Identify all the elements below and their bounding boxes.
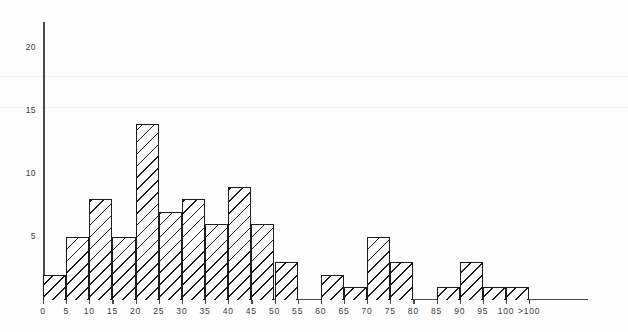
x-tick-label: 50 bbox=[269, 306, 280, 316]
histogram-bar bbox=[390, 262, 413, 300]
x-tick-label: 20 bbox=[130, 306, 141, 316]
x-tick-label: 10 bbox=[84, 306, 95, 316]
y-tick-label: 15 bbox=[8, 105, 36, 115]
x-tick-label: 55 bbox=[292, 306, 303, 316]
x-tick-label: 40 bbox=[223, 306, 234, 316]
x-tick-label: 75 bbox=[385, 306, 396, 316]
histogram-bar bbox=[228, 187, 251, 300]
histogram-bar bbox=[89, 199, 112, 300]
histogram-bar bbox=[460, 262, 483, 300]
x-tick-label: 85 bbox=[431, 306, 442, 316]
x-tick-label: 100 bbox=[498, 306, 515, 316]
x-tick-label: >100 bbox=[518, 306, 540, 316]
histogram-bar bbox=[182, 199, 205, 300]
x-tick-label: 95 bbox=[477, 306, 488, 316]
y-tick-label: 20 bbox=[8, 42, 36, 52]
histogram-bar bbox=[367, 237, 390, 300]
x-tick-label: 30 bbox=[176, 306, 187, 316]
x-tick-label: 25 bbox=[153, 306, 164, 316]
histogram-bar bbox=[159, 212, 182, 300]
x-tick-label: 65 bbox=[338, 306, 349, 316]
histogram-bar bbox=[506, 287, 529, 300]
histogram-bar bbox=[344, 287, 367, 300]
histogram-chart: 5101520 05101520253035404550556065707580… bbox=[0, 0, 628, 332]
x-tick-label: 90 bbox=[454, 306, 465, 316]
histogram-bar bbox=[251, 224, 274, 300]
x-tick-label: 15 bbox=[107, 306, 118, 316]
histogram-bar bbox=[66, 237, 89, 300]
y-tick-label: 10 bbox=[8, 168, 36, 178]
x-tick-label: 80 bbox=[408, 306, 419, 316]
y-tick-label: 5 bbox=[8, 231, 36, 241]
histogram-bar bbox=[205, 224, 228, 300]
histogram-bars bbox=[43, 22, 588, 300]
histogram-bar bbox=[321, 275, 344, 300]
x-tick-label: 35 bbox=[200, 306, 211, 316]
x-tick-label: 60 bbox=[315, 306, 326, 316]
histogram-bar bbox=[43, 275, 66, 300]
histogram-bar bbox=[437, 287, 460, 300]
x-tick-label: 70 bbox=[362, 306, 373, 316]
x-tick-label: 0 bbox=[40, 306, 46, 316]
histogram-bar bbox=[136, 124, 159, 300]
x-tick-label: 45 bbox=[246, 306, 257, 316]
histogram-bar bbox=[483, 287, 506, 300]
x-tick-label: 5 bbox=[63, 306, 69, 316]
histogram-bar bbox=[275, 262, 298, 300]
histogram-bar bbox=[112, 237, 135, 300]
